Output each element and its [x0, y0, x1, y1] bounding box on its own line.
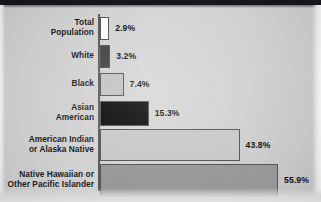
bar-row: Black7.4%: [0, 72, 321, 96]
bar-value-label: 7.4%: [130, 79, 150, 89]
bar-value-label: 15.3%: [155, 108, 180, 118]
page-right-edge: [312, 5, 321, 202]
bar-row: Total Population2.9%: [0, 16, 321, 40]
bar-rect: [100, 17, 109, 40]
bar-rect: [100, 45, 110, 68]
bar-value-label: 2.9%: [115, 23, 135, 33]
bar-value-label: 55.9%: [284, 175, 309, 185]
bar-row: White3.2%: [0, 44, 321, 68]
bar-rect: [100, 129, 240, 161]
bar-category-label: Native Hawaiian or Other Pacific Islande…: [0, 170, 94, 189]
bar-category-label: American Indian or Alaska Native: [0, 135, 94, 154]
bar-rect: [100, 101, 149, 126]
bar-value-label: 3.2%: [116, 51, 136, 61]
page-bottom-edge: [0, 188, 321, 202]
bar-rect: [100, 73, 124, 96]
bar-category-label: Asian American: [0, 103, 94, 122]
bar-chart-plot-area: Total Population2.9%White3.2%Black7.4%As…: [0, 8, 321, 194]
bar-category-label: Black: [0, 79, 94, 89]
chart-figure: Total Population2.9%White3.2%Black7.4%As…: [0, 0, 321, 202]
bar-row: Asian American15.3%: [0, 100, 321, 126]
bar-category-label: White: [0, 51, 94, 61]
bar-category-label: Total Population: [0, 18, 94, 37]
bar-row: American Indian or Alaska Native43.8%: [0, 128, 321, 161]
page-left-edge: [0, 5, 5, 202]
bar-value-label: 43.8%: [246, 140, 271, 150]
